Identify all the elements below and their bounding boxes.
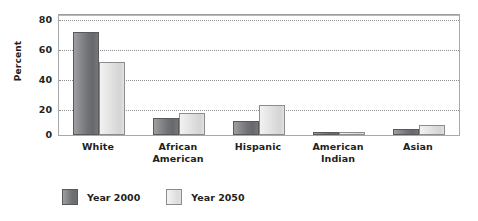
x-axis-label-asian: Asian [378, 141, 458, 153]
bar [233, 121, 259, 135]
bar [259, 105, 285, 135]
x-axis-label-line1: White [58, 141, 138, 153]
legend-label: Year 2050 [191, 192, 244, 203]
y-tick-0: 0 [26, 130, 52, 140]
x-axis-label-line1: American [298, 141, 378, 153]
legend: Year 2000Year 2050 [62, 189, 245, 205]
plot-area [58, 14, 460, 136]
x-axis-label-line2: Indian [298, 153, 378, 165]
bar-group [393, 15, 445, 135]
x-axis-label-line1: African [138, 141, 218, 153]
bar [73, 32, 99, 136]
legend-swatch-icon [62, 189, 78, 205]
x-axis-label-african-american: AfricanAmerican [138, 141, 218, 165]
x-axis-tick-labels: WhiteAfricanAmericanHispanicAmericanIndi… [58, 141, 460, 173]
y-axis-tick-labels: 80 60 40 20 0 [24, 0, 52, 221]
legend-swatch-icon [166, 189, 182, 205]
bar [313, 132, 339, 135]
y-tick-20: 20 [26, 105, 52, 115]
y-axis-title: Percent [13, 21, 23, 101]
bar [339, 132, 365, 135]
bar [179, 113, 205, 135]
y-tick-60: 60 [26, 45, 52, 55]
legend-label: Year 2000 [87, 192, 140, 203]
legend-item[interactable]: Year 2050 [166, 189, 244, 205]
x-axis-label-american-indian: AmericanIndian [298, 141, 378, 165]
bar [419, 125, 445, 135]
bar-group [313, 15, 365, 135]
bar-chart: Percent 80 60 40 20 0 WhiteAfricanAmeric… [0, 0, 478, 221]
x-axis-label-line1: Asian [378, 141, 458, 153]
bar-group [73, 15, 125, 135]
legend-item[interactable]: Year 2000 [62, 189, 140, 205]
x-axis-label-white: White [58, 141, 138, 153]
bar [393, 129, 419, 135]
bar [153, 118, 179, 135]
x-axis-label-line1: Hispanic [218, 141, 298, 153]
bars-layer [59, 15, 459, 135]
x-axis-label-line2: American [138, 153, 218, 165]
x-axis-label-hispanic: Hispanic [218, 141, 298, 153]
bar-group [233, 15, 285, 135]
bar [99, 62, 125, 135]
y-tick-40: 40 [26, 75, 52, 85]
y-tick-80: 80 [26, 15, 52, 25]
bar-group [153, 15, 205, 135]
